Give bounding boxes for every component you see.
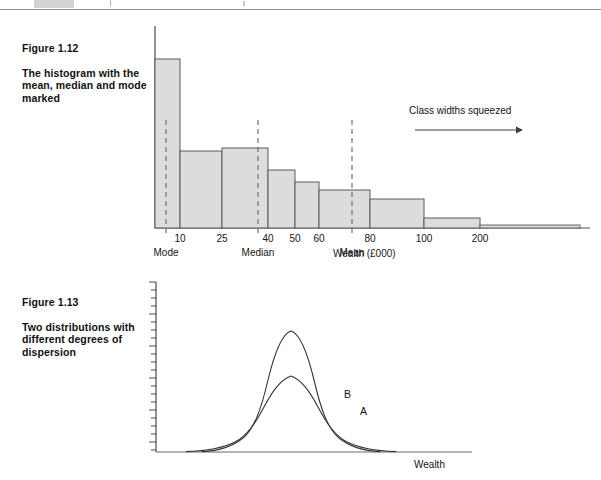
histogram-bar — [180, 151, 222, 228]
median-label: Median — [242, 247, 275, 258]
tick-label-80: 80 — [364, 233, 376, 244]
distributions-chart: B A Wealth — [0, 270, 601, 480]
figure-112: 10 25 40 50 60 80 100 200 Mode Median Me… — [0, 14, 601, 264]
histogram-bar — [370, 199, 424, 228]
histogram-bar — [155, 59, 180, 228]
tick-label-10: 10 — [174, 233, 186, 244]
tick-label-200: 200 — [472, 233, 489, 244]
page-header-artifact — [0, 0, 601, 11]
tick-label-50: 50 — [289, 233, 301, 244]
tick-label-40: 40 — [262, 233, 274, 244]
histogram-bar — [268, 170, 295, 228]
header-rule-line — [0, 9, 601, 10]
histogram-tick-labels: 10 25 40 50 60 80 100 200 — [174, 233, 488, 244]
wealth-axis-title: Wealth (£000) — [333, 248, 396, 259]
header-tick-left — [110, 0, 111, 7]
histogram-bar — [295, 182, 319, 228]
tick-label-60: 60 — [313, 233, 325, 244]
histogram-bar — [424, 218, 480, 228]
class-widths-annotation: Class widths squeezed — [409, 105, 523, 134]
figure-113: B A Wealth — [0, 270, 601, 480]
histogram-bar — [222, 148, 268, 228]
histogram-bars — [155, 59, 580, 228]
header-tick-right — [243, 1, 245, 6]
header-gray-block — [34, 0, 74, 8]
mode-label: Mode — [153, 247, 178, 258]
distributions-axis-title: Wealth — [414, 459, 445, 470]
distributions-y-ticks — [149, 282, 156, 450]
histogram-bar — [480, 225, 580, 228]
histogram-chart: 10 25 40 50 60 80 100 200 Mode Median Me… — [0, 14, 601, 264]
tick-label-25: 25 — [216, 233, 228, 244]
histogram-bar — [319, 190, 370, 228]
tick-label-100: 100 — [416, 233, 433, 244]
class-widths-arrow-head — [516, 127, 523, 134]
class-widths-squeezed-label: Class widths squeezed — [409, 105, 511, 116]
curve-label-a: A — [360, 405, 367, 417]
curve-label-b: B — [344, 388, 351, 400]
curve-b-path — [202, 331, 380, 452]
